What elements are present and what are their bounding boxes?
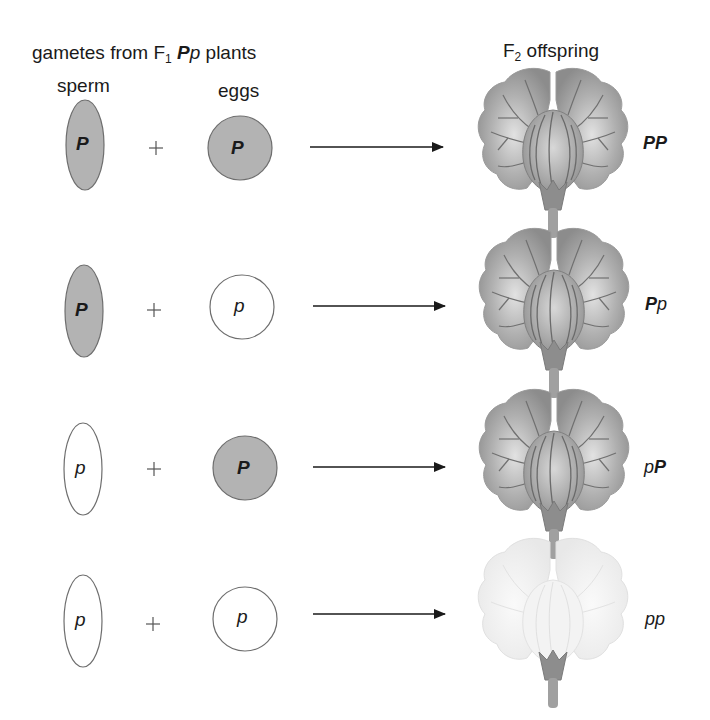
genotype-allele: P [655,133,667,153]
sperm-allele-2: P [75,299,88,321]
genotype-allele: P [654,457,666,477]
cross-row-2 [65,228,629,398]
genotype-allele: P [645,294,657,314]
cross-row-3 [64,389,629,559]
cross-diagram [0,0,710,720]
cross-row-1 [66,68,628,238]
egg-allele-2: p [234,295,245,317]
genotype-label-2: Pp [645,294,667,315]
genotype-label-3: pP [644,457,666,478]
egg-allele-4: p [237,606,248,628]
genotype-allele: p [657,294,667,314]
genotype-allele: p [655,609,665,629]
purple-flower [479,389,629,559]
genotype-label-4: pp [645,609,665,630]
sperm-allele-1: P [76,133,89,155]
genotype-allele: p [645,609,655,629]
egg-allele-3: P [237,457,250,479]
purple-flower [479,228,629,398]
purple-flower [478,68,628,238]
genotype-label-1: PP [643,133,667,154]
cross-row-4 [64,538,628,708]
genotype-allele: p [644,457,654,477]
egg-allele-1: P [231,137,244,159]
sperm-allele-3: p [75,457,86,479]
sperm-allele-4: p [75,609,86,631]
white-flower [478,538,628,708]
genotype-allele: P [643,133,655,153]
